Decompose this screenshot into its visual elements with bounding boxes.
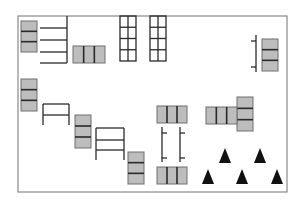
vertical-block-stack <box>21 21 37 52</box>
horizontal-block-row <box>157 167 187 184</box>
shelf-comb <box>40 16 67 63</box>
table <box>96 128 124 160</box>
vertical-block-stack <box>21 79 37 111</box>
table <box>43 104 69 125</box>
horizontal-block-row <box>206 107 237 124</box>
vertical-block-stack <box>128 152 144 184</box>
wall-bracket <box>251 35 256 72</box>
triangle-marker-icon <box>202 169 214 184</box>
triangle-marker-icon <box>254 148 266 163</box>
vertical-block-stack <box>262 39 278 71</box>
triangle-marker-icon <box>219 148 231 163</box>
shelving-grid <box>120 16 136 61</box>
vertical-block-stack <box>75 115 91 148</box>
horizontal-block-row <box>157 106 187 123</box>
horizontal-block-row <box>73 46 105 63</box>
wall-bracket <box>162 127 167 162</box>
triangle-marker-icon <box>271 169 283 184</box>
triangle-marker-icon <box>236 169 248 184</box>
floor-plan-diagram <box>0 0 305 205</box>
shelving-grid <box>150 16 166 61</box>
vertical-block-stack <box>237 97 253 131</box>
wall-bracket <box>180 127 185 162</box>
